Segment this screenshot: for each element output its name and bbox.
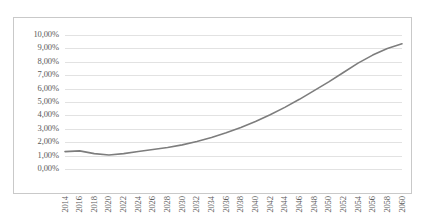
y-axis-tick-label: 9,00%: [0, 43, 59, 52]
gridline: [65, 169, 402, 170]
y-axis-tick-label: 0,00%: [0, 164, 59, 173]
y-axis-tick-label: 10,00%: [0, 30, 59, 39]
series-polyline: [65, 44, 402, 155]
line-series-projection: [65, 35, 402, 169]
y-axis-tick-label: 5,00%: [0, 97, 59, 106]
y-axis-tick-label: 3,00%: [0, 124, 59, 133]
x-axis: 2014201620182020202220242026202820302032…: [65, 172, 402, 196]
y-axis-tick-label: 4,00%: [0, 110, 59, 119]
y-axis-tick-label: 2,00%: [0, 137, 59, 146]
plot-area: [65, 35, 402, 169]
y-axis-tick-label: 1,00%: [0, 151, 59, 160]
y-axis-tick-label: 8,00%: [0, 57, 59, 66]
y-axis-tick-label: 7,00%: [0, 70, 59, 79]
y-axis-tick-label: 6,00%: [0, 84, 59, 93]
chart-container: 10,00%9,00%8,00%7,00%6,00%5,00%4,00%3,00…: [13, 17, 412, 194]
